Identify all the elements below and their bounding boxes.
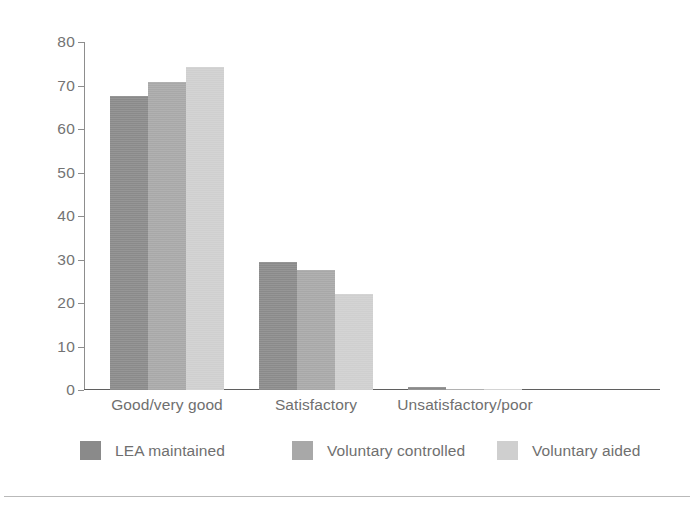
bar — [446, 389, 484, 390]
y-axis-tick-mark — [78, 129, 84, 130]
legend-item[interactable]: LEA maintained — [80, 441, 225, 460]
bar — [259, 262, 297, 390]
y-axis-tick-label: 30 — [57, 251, 75, 269]
x-axis-category-label: Satisfactory — [275, 396, 357, 414]
legend-item[interactable]: Voluntary controlled — [292, 441, 465, 460]
plot-area: 01020304050607080 — [84, 42, 660, 390]
legend-swatch-icon — [292, 441, 313, 460]
x-axis-category-label: Good/very good — [111, 396, 223, 414]
bar — [297, 270, 335, 390]
legend-item-label: Voluntary aided — [532, 442, 640, 460]
legend-item[interactable]: Voluntary aided — [497, 441, 640, 460]
bar — [110, 96, 148, 390]
bar — [484, 389, 522, 390]
y-axis-tick-label: 40 — [57, 207, 75, 225]
x-axis-category-label: Unsatisfactory/poor — [397, 396, 532, 414]
y-axis-tick-label: 10 — [57, 338, 75, 356]
legend-item-label: LEA maintained — [115, 442, 225, 460]
y-axis-tick-label: 60 — [57, 120, 75, 138]
legend-item-label: Voluntary controlled — [327, 442, 465, 460]
bar — [186, 67, 224, 390]
y-axis-tick-mark — [78, 216, 84, 217]
top-edge-artifact — [0, 0, 694, 5]
bar-chart-figure: 01020304050607080 LEA maintainedVoluntar… — [0, 0, 694, 508]
y-axis-tick-mark — [78, 42, 84, 43]
y-axis-tick-mark — [78, 347, 84, 348]
bar — [408, 387, 446, 390]
y-axis-tick-label: 70 — [57, 77, 75, 95]
chart-legend: LEA maintainedVoluntary controlledVolunt… — [0, 441, 694, 465]
y-axis-tick-mark — [78, 86, 84, 87]
bottom-divider-rule — [4, 496, 690, 497]
y-axis-tick-mark — [78, 260, 84, 261]
legend-swatch-icon — [497, 441, 518, 460]
bar — [335, 294, 373, 390]
y-axis-tick-mark — [78, 303, 84, 304]
y-axis-tick-label: 20 — [57, 294, 75, 312]
y-axis-tick-label: 0 — [66, 381, 75, 399]
y-axis-tick-label: 80 — [57, 33, 75, 51]
bar — [148, 82, 186, 390]
y-axis-tick-mark — [78, 390, 84, 391]
y-axis-tick-mark — [78, 173, 84, 174]
legend-swatch-icon — [80, 441, 101, 460]
y-axis-tick-label: 50 — [57, 164, 75, 182]
